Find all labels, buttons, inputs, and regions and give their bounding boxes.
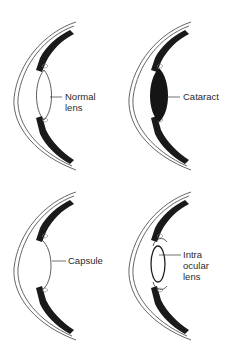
label-capsule: Capsule [68,255,103,266]
panel-cataract [129,22,191,170]
label-intraocular-lens: Intra ocular lens [183,249,209,282]
capsule-shape [42,240,51,290]
label-line: Capsule [68,255,103,266]
normal-lens-shape [37,70,52,120]
eye-lens-diagram [0,0,231,354]
label-line: Intra [183,249,209,260]
cataract-lens-shape [150,68,168,122]
label-line: Normal [65,91,96,102]
label-line: Cataract [183,91,219,102]
label-normal-lens: Normal lens [65,91,96,113]
label-cataract: Cataract [183,91,219,102]
label-line: lens [65,102,96,113]
panel-intraocular-lens [129,192,191,340]
label-line: ocular [183,260,209,271]
panel-capsule [14,192,76,340]
iol-optic [151,246,165,282]
label-line: lens [183,271,209,282]
